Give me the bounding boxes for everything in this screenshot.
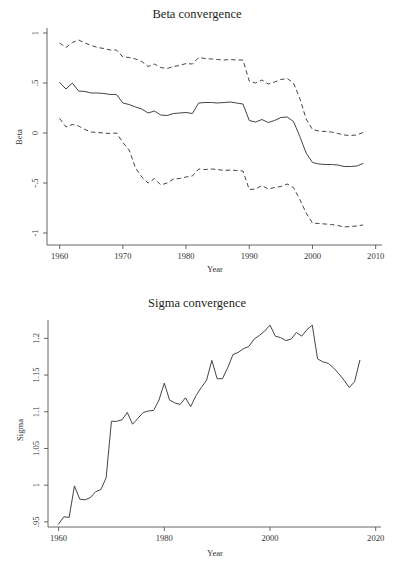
sigma-chart-title: Sigma convergence bbox=[148, 296, 246, 310]
sigma-x-axis-title: Year bbox=[207, 548, 223, 558]
beta-y-tick-label: -.5 bbox=[30, 178, 40, 187]
sigma-y-ticks: .9511.051.11.151.2 bbox=[31, 333, 48, 527]
sigma-y-tick-label: .95 bbox=[31, 516, 41, 527]
sigma-y-axis-title: Sigma bbox=[15, 419, 25, 441]
beta-y-axis-title: Beta bbox=[14, 129, 24, 145]
beta-y-tick-label: .5 bbox=[30, 80, 40, 86]
beta-series-group bbox=[60, 40, 363, 227]
sigma-convergence-chart: Sigma convergence .9511.051.11.151.2 196… bbox=[0, 290, 394, 572]
sigma-x-tick-label: 2020 bbox=[367, 533, 384, 543]
sigma-series-0 bbox=[59, 325, 360, 524]
figure-page: Beta convergence 1.50-.5-1 1960197019801… bbox=[0, 0, 394, 572]
beta-series-1 bbox=[60, 40, 363, 136]
beta-convergence-chart: Beta convergence 1.50-.5-1 1960197019801… bbox=[0, 0, 394, 290]
sigma-y-tick-label: 1.05 bbox=[31, 441, 41, 456]
sigma-x-tick-label: 1960 bbox=[50, 533, 67, 543]
beta-convergence-panel: Beta convergence 1.50-.5-1 1960197019801… bbox=[0, 0, 394, 290]
sigma-series-group bbox=[59, 325, 360, 524]
beta-plot-frame bbox=[47, 28, 382, 245]
beta-x-tick-label: 2000 bbox=[304, 251, 321, 261]
beta-y-tick-label: -1 bbox=[30, 229, 40, 236]
beta-y-ticks: 1.50-.5-1 bbox=[30, 31, 47, 237]
beta-x-ticks: 196019701980199020002010 bbox=[51, 245, 384, 261]
sigma-y-tick-label: 1.2 bbox=[31, 333, 41, 344]
beta-x-tick-label: 1970 bbox=[114, 251, 131, 261]
sigma-convergence-panel: Sigma convergence .9511.051.11.151.2 196… bbox=[0, 290, 394, 572]
beta-y-tick-label: 1 bbox=[30, 31, 40, 35]
beta-chart-title: Beta convergence bbox=[153, 7, 242, 21]
sigma-y-tick-label: 1 bbox=[31, 483, 41, 487]
beta-x-tick-label: 1980 bbox=[177, 251, 194, 261]
sigma-x-ticks: 1960198020002020 bbox=[50, 527, 384, 543]
beta-x-tick-label: 2010 bbox=[367, 251, 384, 261]
sigma-y-tick-label: 1.1 bbox=[31, 406, 41, 417]
beta-x-tick-label: 1960 bbox=[51, 251, 68, 261]
sigma-x-tick-label: 1980 bbox=[156, 533, 173, 543]
beta-x-tick-label: 1990 bbox=[241, 251, 258, 261]
sigma-plot-frame bbox=[48, 320, 381, 527]
beta-y-tick-label: 0 bbox=[30, 131, 40, 135]
beta-series-0 bbox=[60, 83, 363, 167]
beta-series-2 bbox=[60, 119, 363, 228]
sigma-y-tick-label: 1.15 bbox=[31, 368, 41, 383]
sigma-x-tick-label: 2000 bbox=[261, 533, 278, 543]
beta-x-axis-title: Year bbox=[207, 264, 223, 274]
